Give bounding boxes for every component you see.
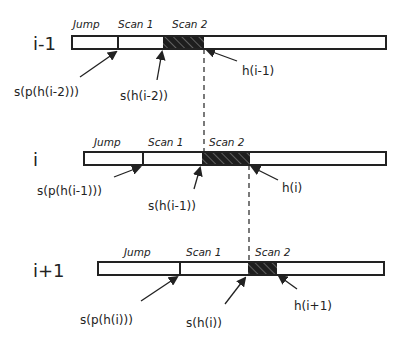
annotation-jump-start: s(p(h(i-1))) (37, 184, 102, 198)
section-label-scan2: Scan 2 (209, 136, 245, 148)
section-label-jump: Jump (92, 136, 121, 148)
section-label-scan1: Scan 1 (186, 246, 222, 258)
arrow (114, 167, 140, 177)
annotation-jump-start: s(p(h(i))) (80, 313, 133, 327)
arrow (157, 52, 162, 80)
row-label: i+1 (33, 260, 65, 281)
hatched-region (248, 263, 277, 274)
section-label-jump: Jump (71, 18, 100, 30)
hatched-region (163, 37, 204, 48)
row-i: i Jump Scan 1 Scan 2 s(p(h(i-1))) s(h(i-… (33, 136, 386, 213)
arrow (80, 52, 116, 77)
section-label-jump: Jump (122, 246, 151, 258)
annotation-scan-start: s(h(i-2)) (120, 89, 168, 103)
row-label: i-1 (33, 33, 56, 54)
row-label: i (33, 149, 38, 170)
diagram-canvas: i-1 Jump Scan 1 Scan 2 s(p(h(i-2))) s(h(… (0, 0, 402, 343)
arrow (194, 168, 200, 189)
section-label-scan2: Scan 2 (172, 18, 208, 30)
annotation-scan-start: s(h(i-1)) (148, 199, 196, 213)
section-label-scan1: Scan 1 (118, 18, 154, 30)
hatched-region (202, 153, 250, 164)
annotation-head: h(i) (282, 181, 302, 195)
annotation-head: h(i-1) (242, 64, 274, 78)
arrow (141, 277, 177, 301)
row-i-minus-1: i-1 Jump Scan 1 Scan 2 s(p(h(i-2))) s(h(… (14, 18, 386, 103)
arrow (207, 50, 237, 61)
annotation-jump-start: s(p(h(i-2))) (14, 85, 79, 99)
buffer-bar (98, 262, 384, 275)
annotation-scan-start: s(h(i)) (186, 316, 222, 330)
buffer-bar (72, 36, 386, 49)
section-label-scan1: Scan 1 (148, 136, 184, 148)
annotation-head: h(i+1) (294, 299, 332, 313)
arrow (279, 276, 297, 289)
arrow (252, 167, 278, 180)
arrow (225, 278, 245, 304)
row-i-plus-1: i+1 Jump Scan 1 Scan 2 s(p(h(i))) s(h(i)… (33, 246, 384, 330)
section-label-scan2: Scan 2 (255, 246, 291, 258)
